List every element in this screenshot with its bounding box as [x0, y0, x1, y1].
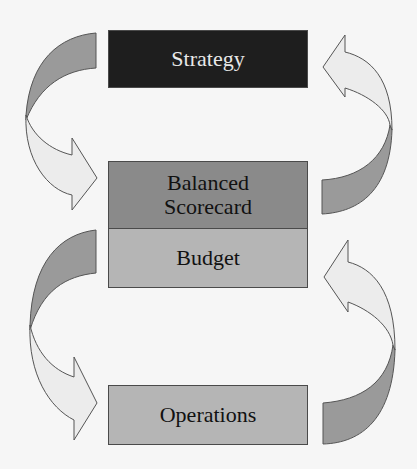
strategy-label: Strategy [171, 47, 244, 71]
budget-label: Budget [176, 246, 240, 270]
operations-label: Operations [160, 403, 257, 427]
balanced-scorecard-label-line1: Balanced [167, 171, 249, 195]
arrow-left-top-icon [26, 33, 97, 210]
operations-box: Operations [108, 385, 308, 445]
arrow-right-bottom-icon [323, 240, 395, 444]
arrow-left-bottom-icon [30, 230, 97, 440]
arrow-right-top-icon [322, 35, 392, 214]
budget-box: Budget [108, 228, 308, 288]
balanced-scorecard-box: Balanced Scorecard [108, 161, 308, 229]
strategy-box: Strategy [108, 30, 308, 88]
balanced-scorecard-label-line2: Scorecard [164, 195, 252, 219]
